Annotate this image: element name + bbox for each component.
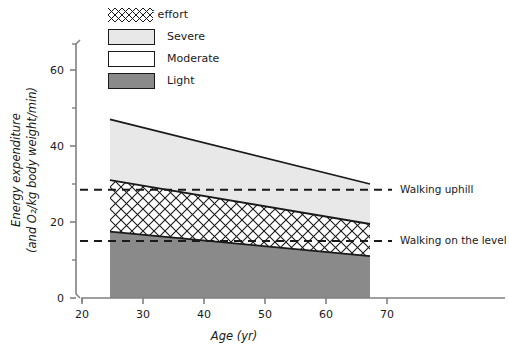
- x-tick-label-60: 60: [319, 308, 333, 321]
- y-axis-title-line2: (and O₂/kg body weight/min): [25, 87, 39, 253]
- y-tick-label-60: 60: [50, 64, 64, 77]
- x-axis-spine: [82, 298, 505, 302]
- x-tick-label-50: 50: [258, 308, 272, 321]
- x-tick-label-70: 70: [380, 308, 394, 321]
- y-tick-label-40: 40: [50, 140, 64, 153]
- y-tick-label-0: 0: [57, 292, 64, 305]
- y-axis-title: Energy expenditure (and O₂/kg body weigh…: [9, 87, 39, 253]
- x-tick-label-30: 30: [136, 308, 150, 321]
- chart-figure: Level of effort Severe Moderate Light: [0, 0, 509, 348]
- y-axis-spine: [76, 40, 80, 298]
- x-axis-ticks: [82, 298, 387, 304]
- y-tick-label-20: 20: [50, 216, 64, 229]
- annotation-walking-uphill: Walking uphill: [400, 183, 473, 195]
- x-axis-title: Age (yr): [210, 329, 257, 343]
- x-tick-label-40: 40: [197, 308, 211, 321]
- annotation-walking-on-level: Walking on the level: [400, 234, 507, 246]
- plot-svg: 0 20 40 60 Energy expenditure (and O₂/kg…: [0, 0, 509, 348]
- x-tick-label-20: 20: [75, 308, 89, 321]
- y-axis-title-line1: Energy expenditure: [9, 113, 23, 227]
